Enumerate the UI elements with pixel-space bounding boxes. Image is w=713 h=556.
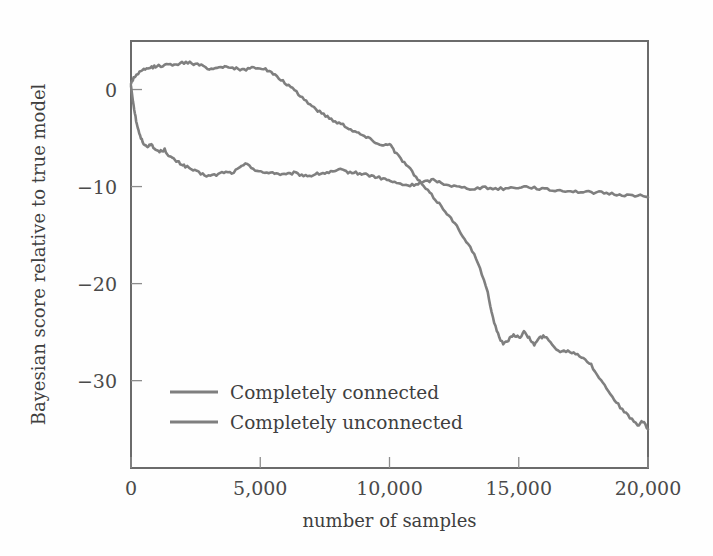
x-tick-label: 15,000	[486, 477, 552, 499]
x-axis-tick-labels: 05,00010,00015,00020,000	[125, 477, 681, 499]
y-tick-label: −30	[77, 370, 117, 392]
y-tick-label: −20	[77, 273, 117, 295]
y-axis-tick-labels: 0−10−20−30	[77, 79, 117, 392]
x-tick-label: 20,000	[615, 477, 681, 499]
plot-frame	[131, 41, 648, 468]
bayesian-score-line-chart: 0−10−20−30 05,00010,00015,00020,000 Comp…	[0, 0, 713, 556]
figure-container: 0−10−20−30 05,00010,00015,00020,000 Comp…	[0, 0, 713, 556]
legend-label-1: Completely connected	[230, 382, 439, 403]
y-axis-title: Bayesian score relative to true model	[28, 83, 49, 425]
series-lines	[131, 62, 648, 430]
series-line-2	[131, 62, 648, 430]
x-axis-title: number of samples	[302, 510, 476, 531]
x-tick-label: 10,000	[356, 477, 422, 499]
x-tick-label: 5,000	[233, 477, 287, 499]
x-tick-label: 0	[125, 477, 137, 499]
series-line-1	[131, 86, 648, 197]
y-tick-label: 0	[105, 79, 117, 101]
legend-label-2: Completely unconnected	[230, 412, 463, 433]
plot-frame-border	[131, 41, 648, 468]
x-axis-ticks	[131, 457, 648, 468]
chart-legend: Completely connectedCompletely unconnect…	[170, 382, 463, 433]
y-tick-label: −10	[77, 176, 117, 198]
